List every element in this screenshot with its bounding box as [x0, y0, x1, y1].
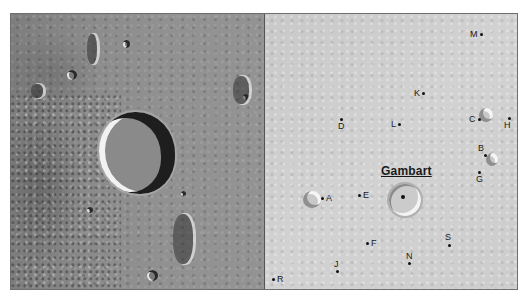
lunar-map-figure: Gambart A B C D E F G H J K L M N R S: [10, 13, 518, 290]
marker-b: B: [478, 144, 484, 153]
marker-a: A: [321, 194, 332, 203]
photo-panel: [11, 14, 264, 289]
marker-h: H: [504, 117, 511, 130]
gambart-crater-photo: [99, 112, 175, 194]
crater-c-shape: [479, 108, 493, 122]
rough-highlands: [11, 94, 121, 289]
marker-f: F: [366, 239, 377, 248]
marker-n: N: [406, 252, 413, 265]
marker-dot: [336, 270, 339, 273]
marker-dot: [366, 242, 369, 245]
crater-b-shape: [486, 153, 498, 166]
marker-dot: [478, 118, 481, 121]
chart-panel: Gambart A B C D E F G H J K L M N R S: [264, 14, 518, 289]
crater-small: [87, 207, 93, 213]
marker-k: K: [414, 89, 425, 98]
gambart-label: Gambart: [381, 164, 432, 178]
marker-dot: [321, 197, 324, 200]
marker-j: J: [334, 260, 339, 273]
crater-small: [67, 70, 77, 80]
marker-c: C: [469, 115, 481, 124]
marker-dot: [480, 33, 483, 36]
crater-small: [123, 40, 130, 48]
marker-dot: [398, 123, 401, 126]
marker-m: M: [470, 30, 483, 39]
ridge-feature: [31, 84, 43, 98]
marker-dot: [408, 262, 411, 265]
gambart-center-marker: [401, 195, 405, 199]
marker-dot: [272, 278, 275, 281]
marker-d: D: [338, 118, 345, 131]
marker-b-dot: [484, 154, 487, 157]
marker-dot: [358, 194, 361, 197]
marker-s: S: [445, 233, 451, 247]
ridge-feature: [233, 76, 249, 104]
marker-dot: [448, 244, 451, 247]
crater-small: [181, 191, 186, 196]
marker-dot: [422, 92, 425, 95]
gambart-crater-outline: [387, 182, 423, 218]
marker-e: E: [358, 191, 369, 200]
crater-a-shape: [303, 191, 321, 208]
marker-g: G: [476, 171, 483, 184]
marker-l: L: [391, 120, 401, 129]
crater-small: [147, 270, 158, 281]
ridge-feature: [173, 214, 193, 264]
ridge-feature: [87, 34, 97, 64]
marker-r: R: [272, 275, 284, 284]
